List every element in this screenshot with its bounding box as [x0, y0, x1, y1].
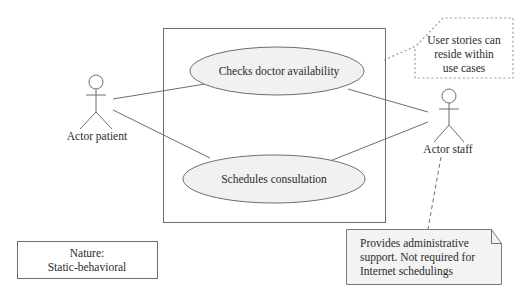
svg-text:Internet schedulings: Internet schedulings [360, 265, 453, 278]
actor-staff[interactable]: Actor staff [423, 89, 472, 155]
user-stories-note: User stories can reside within use cases [384, 18, 513, 78]
svg-text:use cases: use cases [443, 62, 486, 74]
svg-text:reside within: reside within [434, 48, 494, 60]
use-case-checks-doctor-availability[interactable]: Checks doctor availability [190, 47, 364, 95]
actor-patient[interactable]: Actor patient [67, 75, 128, 143]
use-case-label: Schedules consultation [221, 173, 327, 185]
note-connector [428, 157, 441, 229]
svg-text:Nature:: Nature: [70, 247, 104, 259]
stick-figure-icon [80, 75, 112, 129]
use-case-diagram: Checks doctor availability Schedules con… [0, 0, 524, 301]
use-case-schedules-consultation[interactable]: Schedules consultation [183, 155, 365, 203]
nature-box: Nature: Static-behavioral [18, 242, 158, 279]
svg-text:support. Not required for: support. Not required for [360, 251, 475, 264]
staff-note: Provides administrative support. Not req… [347, 230, 502, 285]
stick-figure-icon [434, 89, 464, 142]
actor-label: Actor patient [67, 130, 128, 143]
svg-text:Static-behavioral: Static-behavioral [48, 261, 127, 273]
use-case-label: Checks doctor availability [219, 65, 340, 78]
svg-text:User stories can: User stories can [427, 34, 501, 46]
svg-text:Provides administrative: Provides administrative [360, 237, 469, 249]
actor-label: Actor staff [423, 143, 472, 155]
